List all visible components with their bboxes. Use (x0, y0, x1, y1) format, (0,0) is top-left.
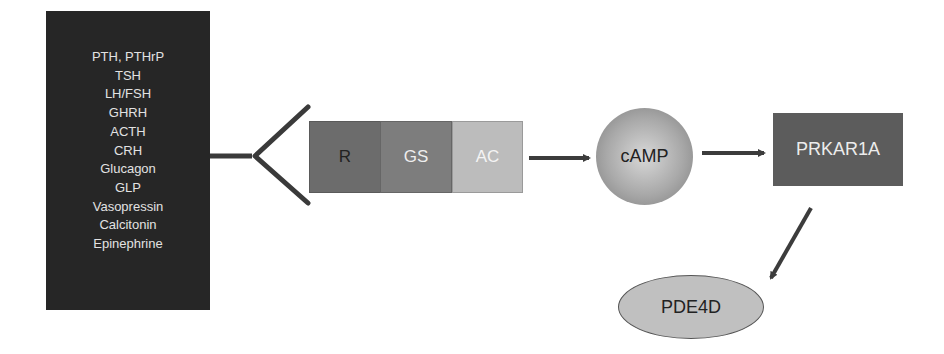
g-protein-segment-gs: GS (380, 121, 452, 193)
pde4d-label: PDE4D (661, 297, 721, 318)
adenylyl-cyclase-segment-ac: AC (452, 121, 523, 193)
camp-node: cAMP (596, 108, 693, 205)
arrow-prkar1a-to-pde4d (771, 208, 811, 278)
receptor-binding-site-icon (255, 107, 308, 203)
ac-label: AC (476, 147, 500, 167)
prkar1a-label: PRKAR1A (796, 139, 880, 160)
camp-label: cAMP (620, 146, 668, 167)
prkar1a-node: PRKAR1A (773, 113, 903, 186)
receptor-label: R (339, 147, 351, 167)
receptor-segment-r: R (309, 121, 381, 193)
gs-label: GS (404, 147, 429, 167)
pde4d-node: PDE4D (618, 275, 764, 339)
